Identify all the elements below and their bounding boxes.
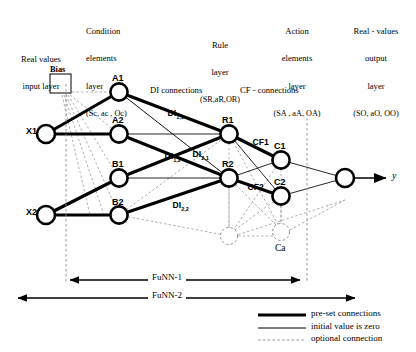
label-di-connections: DI connections — [150, 86, 202, 95]
node-r2 — [220, 169, 237, 186]
node-b2 — [110, 206, 127, 223]
header-tuple: (SO, aO, OO) — [338, 110, 414, 119]
header-rule-layer: Rule layer (SR,aR,OR) — [188, 22, 252, 124]
edge-label-base: DI — [173, 200, 182, 210]
node-x2 — [37, 206, 55, 224]
edge-label-cf-2: CF2 — [238, 174, 264, 202]
node-label-x2: X2 — [26, 208, 37, 218]
edge-label-di-2-2: DI2,2 — [163, 192, 189, 221]
node-label-r1: R1 — [222, 116, 234, 126]
node-label-ca: Ca — [275, 243, 286, 253]
node-b1 — [110, 169, 127, 186]
header-line: output — [338, 54, 414, 63]
edge-label-di-2-1: DI2,1 — [183, 141, 209, 170]
header-line: Condition — [86, 27, 168, 36]
header-line: Action — [258, 27, 336, 36]
header-tuple: (SA , aA, OA) — [258, 110, 336, 119]
node-label-c1: C1 — [274, 142, 286, 152]
header-line: elements — [258, 54, 336, 63]
legend-label-zero: initial value is zero — [311, 322, 380, 332]
header-output-layer: Real - values output layer (SO, aO, OO) — [338, 8, 414, 138]
edge-label-di-1-1: DI1,1 — [158, 100, 184, 129]
edge-label-base: DI — [168, 108, 177, 118]
header-line: Rule — [188, 41, 252, 50]
edge-label-base: DI — [193, 149, 202, 159]
legend-label-optional: optional connection — [311, 334, 382, 344]
span-label-funn-1: FuNN-1 — [148, 273, 186, 283]
edge-label-base: DI — [165, 151, 174, 161]
legend-label-preset: pre-set connections — [311, 309, 381, 319]
header-line: elements — [86, 54, 168, 63]
funn-architecture-figure: Real values input layer Condition elemen… — [0, 0, 416, 352]
node-output — [336, 169, 354, 187]
edge-label-cf-1: CF1 — [243, 129, 269, 157]
edge-label-di-1-2: DI1,2 — [155, 143, 181, 172]
edge-label-base: CF1 — [253, 137, 269, 147]
optional-node-ca — [273, 224, 290, 241]
header-line: layer — [338, 82, 414, 91]
header-line: input layer — [4, 82, 78, 91]
edge-label-sub: 2,2 — [181, 206, 189, 212]
node-label-b2: B2 — [112, 198, 124, 208]
node-label-r2: R2 — [222, 160, 234, 170]
header-input-layer: Real values input layer — [4, 36, 78, 110]
node-c1 — [272, 151, 289, 168]
node-label-x1: X1 — [26, 127, 37, 137]
optional-node-ra — [221, 228, 238, 245]
edge-label-sub: 1,2 — [173, 157, 181, 163]
edge-label-sub: 1,1 — [176, 114, 184, 120]
header-line: Real - values — [338, 27, 414, 36]
node-label-b1: B1 — [112, 160, 124, 170]
header-condition-layer: Condition elements layer (Sc, ac , Oc) — [86, 8, 168, 138]
header-tuple: (Sc, ac , Oc) — [86, 110, 168, 119]
output-variable-label: y — [392, 171, 396, 182]
label-cf-connections: CF - connections — [240, 86, 299, 95]
header-line: Real values — [4, 55, 78, 64]
node-label-a1: A1 — [112, 74, 124, 84]
node-r1 — [220, 125, 237, 142]
node-label-a2: A2 — [112, 116, 124, 126]
header-line: layer — [188, 68, 252, 77]
edge-label-base: CF2 — [248, 182, 264, 192]
span-label-funn-2: FuNN-2 — [148, 291, 186, 301]
header-action-layer: Action elements layer (SA , aA, OA) — [258, 8, 336, 138]
node-c2 — [272, 187, 289, 204]
edge-label-sub: 2,1 — [201, 155, 209, 161]
header-tuple: (SR,aR,OR) — [188, 96, 252, 105]
node-x1 — [37, 125, 55, 143]
node-label-c2: C2 — [274, 178, 286, 188]
bias-label: Bias — [50, 65, 65, 74]
